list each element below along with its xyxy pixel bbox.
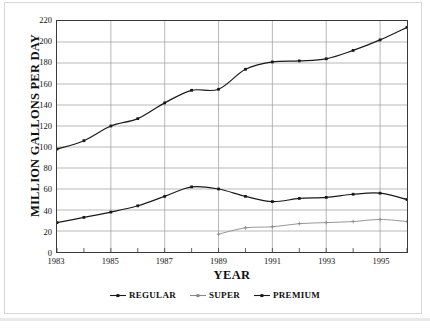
y-axis-tick-labels: 020406080100120140160180200220	[26, 0, 52, 328]
x-axis-tick-label: 1987	[144, 256, 184, 266]
x-axis-tick-label: 1983	[36, 256, 76, 266]
data-point-regular-1984	[83, 139, 86, 142]
data-point-premium-1992	[298, 197, 301, 200]
legend-item-super[interactable]: SUPER	[190, 290, 240, 300]
data-point-regular-1985	[109, 125, 112, 128]
data-point-premium-1984	[83, 216, 86, 219]
legend-item-regular[interactable]: REGULAR	[110, 290, 176, 300]
y-axis-tick-label: 20	[28, 228, 52, 236]
data-point-premium-1995	[379, 192, 382, 195]
line-chart: MILLION GALLONS PER DAY 0204060801001201…	[0, 0, 430, 328]
data-point-super-1993	[324, 221, 328, 225]
legend-label: REGULAR	[129, 290, 176, 300]
y-axis-tick-label: 100	[28, 143, 52, 151]
chart-figure: MILLION GALLONS PER DAY 0204060801001201…	[0, 0, 430, 328]
legend-marker-icon	[110, 291, 126, 300]
x-axis-tick-label: 1991	[253, 256, 293, 266]
data-point-super-1989	[217, 232, 221, 236]
data-point-regular-1990	[244, 68, 247, 71]
data-point-super-1990	[244, 226, 248, 230]
data-point-super-1992	[298, 222, 302, 226]
data-point-regular-1987	[163, 102, 166, 105]
data-point-regular-1989	[217, 88, 220, 91]
legend-marker-icon	[190, 291, 206, 300]
legend-marker-icon	[254, 291, 270, 300]
data-point-regular-1995	[379, 39, 382, 42]
series-line-regular	[57, 27, 407, 149]
data-point-super-1996	[405, 220, 407, 224]
data-point-regular-1996	[406, 26, 407, 29]
data-point-super-1991	[271, 225, 275, 229]
data-point-regular-1983	[57, 148, 58, 151]
x-axis-tick-label: 1995	[361, 256, 401, 266]
legend-item-premium[interactable]: PREMIUM	[254, 290, 320, 300]
y-axis-tick-label: 120	[28, 122, 52, 130]
y-axis-tick-label: 160	[28, 80, 52, 88]
y-axis-tick-label: 140	[28, 101, 52, 109]
y-axis-tick-label: 200	[28, 37, 52, 45]
y-axis-tick-label: 220	[28, 16, 52, 24]
data-point-premium-1993	[325, 196, 328, 199]
x-axis-tick-label: 1985	[90, 256, 130, 266]
data-point-super-1995	[378, 218, 382, 222]
data-point-premium-1987	[163, 195, 166, 198]
data-point-premium-1991	[271, 200, 274, 203]
data-point-premium-1985	[109, 211, 112, 214]
y-axis-tick-label: 40	[28, 207, 52, 215]
data-point-super-1994	[351, 220, 355, 224]
chart-legend: REGULARSUPERPREMIUM	[0, 290, 430, 300]
series-line-super	[219, 219, 407, 234]
data-point-premium-1989	[217, 188, 220, 191]
y-axis-tick-label: 180	[28, 58, 52, 66]
plot-area	[56, 20, 408, 253]
data-point-regular-1986	[136, 117, 139, 120]
data-point-regular-1994	[352, 49, 355, 52]
data-point-regular-1991	[271, 61, 274, 64]
legend-label: SUPER	[209, 290, 240, 300]
data-point-premium-1986	[136, 204, 139, 207]
data-point-premium-1983	[57, 221, 58, 224]
y-axis-tick-label: 80	[28, 164, 52, 172]
data-point-premium-1990	[244, 195, 247, 198]
data-point-regular-1988	[190, 89, 193, 92]
data-point-regular-1992	[298, 60, 301, 63]
series-line-premium	[57, 186, 407, 222]
x-axis-tick-label: 1993	[307, 256, 347, 266]
y-axis-tick-label: 60	[28, 185, 52, 193]
x-axis-title: YEAR	[56, 268, 408, 283]
legend-label: PREMIUM	[273, 290, 320, 300]
data-point-premium-1996	[406, 198, 407, 201]
data-point-regular-1993	[325, 57, 328, 60]
plot-svg	[57, 21, 407, 252]
data-point-premium-1988	[190, 186, 193, 189]
x-axis-tick-label: 1989	[198, 256, 238, 266]
data-point-premium-1994	[352, 193, 355, 196]
